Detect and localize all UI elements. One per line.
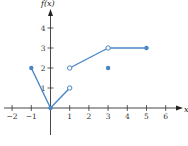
closed-point — [29, 66, 33, 70]
y-axis-label: f(x) — [40, 0, 55, 8]
x-tick-label: 1 — [67, 112, 72, 121]
x-axis-arrow-icon — [176, 106, 183, 111]
y-tick-label: 4 — [41, 24, 46, 33]
open-point — [68, 86, 72, 90]
x-tick-label: 5 — [144, 112, 149, 121]
open-point — [68, 66, 72, 70]
closed-point — [106, 66, 110, 70]
x-tick-label: 2 — [87, 112, 92, 121]
x-tick-label: −1 — [26, 112, 37, 121]
x-tick-label: 4 — [125, 112, 130, 121]
y-tick-label: 3 — [41, 44, 46, 53]
x-tick-label: −2 — [7, 112, 18, 121]
function-graph: −2−11234561234 f(x) x — [0, 0, 188, 146]
graph-segment — [70, 48, 108, 68]
y-axis-arrow-icon — [48, 9, 53, 16]
x-tick-label: 3 — [106, 112, 111, 121]
open-point — [106, 46, 110, 50]
y-tick-label: 2 — [41, 64, 46, 73]
graph-segment — [51, 88, 70, 108]
closed-point — [144, 46, 148, 50]
x-axis-label: x — [184, 105, 188, 114]
x-tick-label: 6 — [163, 112, 168, 121]
graph-segments — [31, 48, 146, 108]
tick-labels: −2−11234561234 — [7, 24, 169, 122]
closed-point — [48, 106, 52, 110]
